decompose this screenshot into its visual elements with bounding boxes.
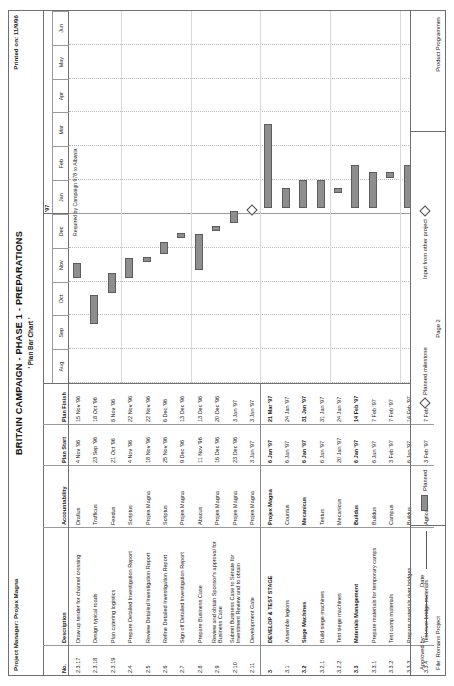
- cell-description: Review and obtain Sponsor's approval for…: [208, 527, 225, 645]
- table-row[interactable]: 3.3.2Test camp materialsCampus3 Feb '977…: [382, 384, 399, 675]
- timescale-month-oct: Oct: [52, 282, 69, 316]
- table-row[interactable]: 2.3.18Design typical roadsTrafficus23 Se…: [86, 384, 103, 675]
- timescale-month-row: AugSepOctNovDecJanFebMarAprMayJun: [52, 11, 69, 383]
- cell-plan-finish: 21 Mar '97: [261, 383, 277, 424]
- table-row[interactable]: 2.5Review Detailed Investigation ReportP…: [139, 384, 156, 675]
- cell-accountability: Mecanicus: [295, 465, 312, 527]
- row-separator: [400, 11, 401, 383]
- cell-plan-start: 6 Jan '97: [278, 424, 295, 465]
- gantt-bar[interactable]: [334, 188, 342, 193]
- gantt-bar[interactable]: [351, 165, 359, 208]
- cell-description: Prepare Business Case: [191, 527, 208, 645]
- task-table: No. Description Accountability Plan Star…: [43, 383, 411, 675]
- page-subtitle: ' Plan Bar Chart ': [27, 11, 34, 675]
- cell-plan-finish: 24 Jan '97: [278, 383, 295, 424]
- cell-description: Materials Management: [347, 527, 364, 645]
- legend-planned: Planned: [421, 470, 428, 511]
- timescale-month-may: May: [52, 45, 69, 79]
- gantt-timescale: '97 AugSepOctNovDecJanFebMarAprMayJun: [43, 11, 69, 383]
- cell-no: 3.3.2: [382, 645, 399, 675]
- cell-plan-finish: 22 Nov '96: [139, 383, 156, 424]
- gantt-bar[interactable]: [160, 242, 168, 255]
- cell-plan-start: 25 Nov '96: [156, 424, 173, 465]
- table-row[interactable]: 2.8Prepare Business CaseAbacus11 Nov '96…: [191, 384, 208, 675]
- table-row[interactable]: 2.3.17Draw up tender for channel crossin…: [69, 384, 86, 675]
- gantt-bar[interactable]: [195, 234, 203, 270]
- cell-plan-finish: 13 Dec '96: [173, 383, 190, 424]
- table-row[interactable]: 3.2.2Test siege machinesMecanicus20 Jan …: [330, 384, 347, 675]
- table-row[interactable]: 2.11Development GateProjex Magna3 Jan '9…: [243, 384, 260, 675]
- page-footer: Approved by: Date File: Romans Project P…: [410, 11, 445, 675]
- cell-plan-start: 21 Oct '96: [104, 424, 121, 465]
- gantt-plot: Required by Campaign 978 to Albania: [69, 11, 411, 383]
- table-row[interactable]: 3DEVELOP & TEST STAGEProjex Magna6 Jan '…: [260, 384, 277, 675]
- gantt-bar[interactable]: [143, 257, 151, 262]
- table-row[interactable]: 3.3.1Prepare materials for temporary cam…: [365, 384, 382, 675]
- cell-plan-finish: 15 Nov '96: [69, 383, 86, 424]
- table-row[interactable]: 2.3.19Plan catering logisticsFeedus21 Oc…: [104, 384, 121, 675]
- gantt-bar[interactable]: [177, 233, 185, 238]
- cell-accountability: Projex Magna: [261, 465, 277, 527]
- cell-accountability: Testus: [312, 465, 329, 527]
- gantt-bar[interactable]: [230, 211, 238, 223]
- gantt-bar[interactable]: [90, 295, 98, 324]
- cell-description: Build siege machines: [312, 527, 329, 645]
- screenshot-canvas: Project Manager: Projex Magna Printed on…: [0, 0, 454, 686]
- gantt-bar[interactable]: [212, 226, 220, 231]
- gantt-bar[interactable]: [299, 180, 307, 208]
- cell-accountability: Drafius: [69, 465, 86, 527]
- legend-input: Input from other project: [421, 207, 429, 279]
- gantt-bar[interactable]: [317, 180, 325, 208]
- legend-planned-label: Planned: [422, 470, 428, 491]
- cell-accountability: Mecanicus: [330, 465, 347, 527]
- cell-plan-finish: 3 Jan '97: [243, 383, 260, 424]
- cell-plan-start: 6 Jan '97: [295, 424, 312, 465]
- cell-description: DEVELOP & TEST STAGE: [261, 527, 277, 645]
- cell-no: 3.2: [295, 645, 312, 675]
- table-row[interactable]: 3.1Assemble legionsCountus6 Jan '9724 Ja…: [278, 384, 295, 675]
- gantt-bar[interactable]: [369, 172, 377, 208]
- gantt-bar[interactable]: [386, 172, 394, 177]
- cell-description: Refine Detailed Investigation Report: [156, 527, 173, 645]
- cell-plan-start: 4 Nov '96: [121, 424, 138, 465]
- cell-description: Plan catering logistics: [104, 527, 121, 645]
- table-row[interactable]: 2.4Prepare Detailed Investigation Report…: [121, 384, 138, 675]
- table-row[interactable]: 3.3Materials ManagementBuildus6 Jan '971…: [347, 384, 364, 675]
- row-separator: [121, 11, 122, 383]
- table-row[interactable]: 2.7Sign off Detailed Investigation Repor…: [173, 384, 190, 675]
- gantt-bar[interactable]: [282, 188, 290, 209]
- cell-no: 3.3.1: [365, 645, 382, 675]
- date-label: Date: [419, 575, 425, 587]
- cell-plan-finish: 7 Feb '97: [382, 383, 399, 424]
- row-separator: [191, 11, 192, 383]
- timescale-month-feb: Feb: [52, 146, 69, 180]
- gantt-bar[interactable]: [264, 124, 272, 208]
- gantt-milestone[interactable]: [246, 205, 257, 216]
- footer-approval-block: Approved by: Date File: Romans Project: [411, 525, 445, 675]
- timescale-month-jan: Jan: [52, 180, 69, 214]
- gantt-bar[interactable]: [73, 263, 81, 278]
- cell-plan-finish: 31 Jan '97: [312, 383, 329, 424]
- cell-no: 2.10: [226, 645, 243, 675]
- row-separator: [330, 11, 331, 383]
- product-programmes-label: Product Programmes: [435, 17, 441, 72]
- cell-no: 2.3.19: [104, 645, 121, 675]
- cell-no: 3.1: [278, 645, 295, 675]
- column-header-accountability: Accountability: [43, 465, 68, 527]
- table-row[interactable]: 3.2.1Build siege machinesTestus6 Jan '97…: [312, 384, 329, 675]
- cell-plan-start: 11 Nov '96: [191, 424, 208, 465]
- cell-accountability: Countus: [278, 465, 295, 527]
- cell-description: Assemble legions: [278, 527, 295, 645]
- table-row[interactable]: 2.9Review and obtain Sponsor's approval …: [208, 384, 225, 675]
- cell-plan-finish: 8 Nov '96: [104, 383, 121, 424]
- table-row[interactable]: 3.2Siege MachinesMecanicus6 Jan '9731 Ja…: [295, 384, 312, 675]
- cell-plan-start: 9 Dec '96: [173, 424, 190, 465]
- table-row[interactable]: 2.6Refine Detailed Investigation ReportS…: [156, 384, 173, 675]
- cell-plan-start: 4 Nov '96: [69, 424, 86, 465]
- cell-plan-start: 18 Nov '96: [139, 424, 156, 465]
- file-label: File: Romans Project: [435, 616, 441, 670]
- gantt-bar[interactable]: [125, 258, 133, 278]
- gantt-bar[interactable]: [108, 273, 116, 293]
- table-row[interactable]: 2.10Submit Business Case to Senate for I…: [226, 384, 243, 675]
- cell-plan-start: 6 Jan '97: [312, 424, 329, 465]
